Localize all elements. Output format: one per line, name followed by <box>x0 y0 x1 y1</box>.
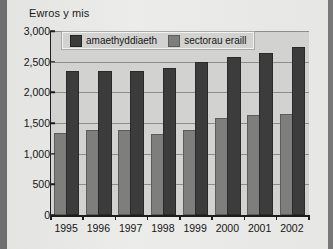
legend-entry-sectorau-eraill: sectorau eraill <box>168 35 246 47</box>
y-axis-tick-label: 500 <box>9 178 50 190</box>
x-axis-tick-label-1996: 1996 <box>87 222 110 234</box>
x-axis-tick-label-1999: 1999 <box>183 222 206 234</box>
y-axis-tick-label: 3,000 <box>9 25 50 37</box>
x-axis-tick-mark <box>50 215 52 220</box>
y-axis-tick-label: 2,500 <box>9 56 50 68</box>
y-axis-tick-label: 1,000 <box>9 148 50 160</box>
y-axis-tick-mark <box>50 153 55 155</box>
x-axis-tick-mark <box>244 215 246 220</box>
x-axis-tick-label-2000: 2000 <box>216 222 239 234</box>
bar-sectorau-eraill-1997 <box>130 71 144 215</box>
x-axis-tick-mark <box>147 215 149 220</box>
legend-entry-amaethyddiaeth: amaethyddiaeth <box>70 35 157 47</box>
legend-swatch-icon-sectorau-eraill <box>168 35 180 47</box>
bar-sectorau-eraill-2000 <box>227 57 241 215</box>
bar-sectorau-eraill-1998 <box>163 68 177 215</box>
left-edge-band <box>0 0 7 249</box>
y-axis-labels: 05001,0001,5002,0002,5003,000 <box>7 0 50 249</box>
bar-sectorau-eraill-1996 <box>98 71 112 215</box>
x-axis-tick-label-2002: 2002 <box>280 222 303 234</box>
x-axis-tick-mark <box>115 215 117 220</box>
y-axis-tick-label: 2,000 <box>9 86 50 98</box>
x-axis-tick-mark <box>82 215 84 220</box>
x-axis-tick-mark <box>276 215 278 220</box>
y-axis-tick-mark <box>50 30 55 32</box>
bar-sectorau-eraill-2002 <box>292 47 306 215</box>
y-axis-tick-label: 1,500 <box>9 117 50 129</box>
plot-area <box>50 31 309 215</box>
x-axis-tick-label-1995: 1995 <box>54 222 77 234</box>
x-axis-tick-label-1998: 1998 <box>151 222 174 234</box>
x-axis-tick-mark <box>211 215 213 220</box>
legend-swatch-icon-amaethyddiaeth <box>70 35 82 47</box>
y-axis-tick-mark <box>50 122 55 124</box>
legend-label-amaethyddiaeth: amaethyddiaeth <box>86 35 157 46</box>
x-axis-tick-mark <box>308 215 310 220</box>
bar-chart-figure: Ewros y mis 05001,0001,5002,0002,5003,00… <box>7 0 328 249</box>
y-axis-tick-label: 0 <box>9 209 50 221</box>
x-axis-tick-label-1997: 1997 <box>119 222 142 234</box>
chart-legend: amaethyddiaeth sectorau eraill <box>62 32 254 49</box>
chart-page: Ewros y mis 05001,0001,5002,0002,5003,00… <box>0 0 333 249</box>
y-axis-tick-mark <box>50 92 55 94</box>
bar-sectorau-eraill-2001 <box>259 53 273 215</box>
y-axis-tick-mark <box>50 61 55 63</box>
legend-label-sectorau-eraill: sectorau eraill <box>184 35 246 46</box>
x-axis-tick-mark <box>179 215 181 220</box>
y-axis-tick-mark <box>50 184 55 186</box>
bar-sectorau-eraill-1999 <box>195 62 209 215</box>
x-axis-tick-label-2001: 2001 <box>248 222 271 234</box>
plot-inner <box>51 31 309 215</box>
bar-sectorau-eraill-1995 <box>66 71 80 215</box>
right-edge-band <box>328 0 333 249</box>
